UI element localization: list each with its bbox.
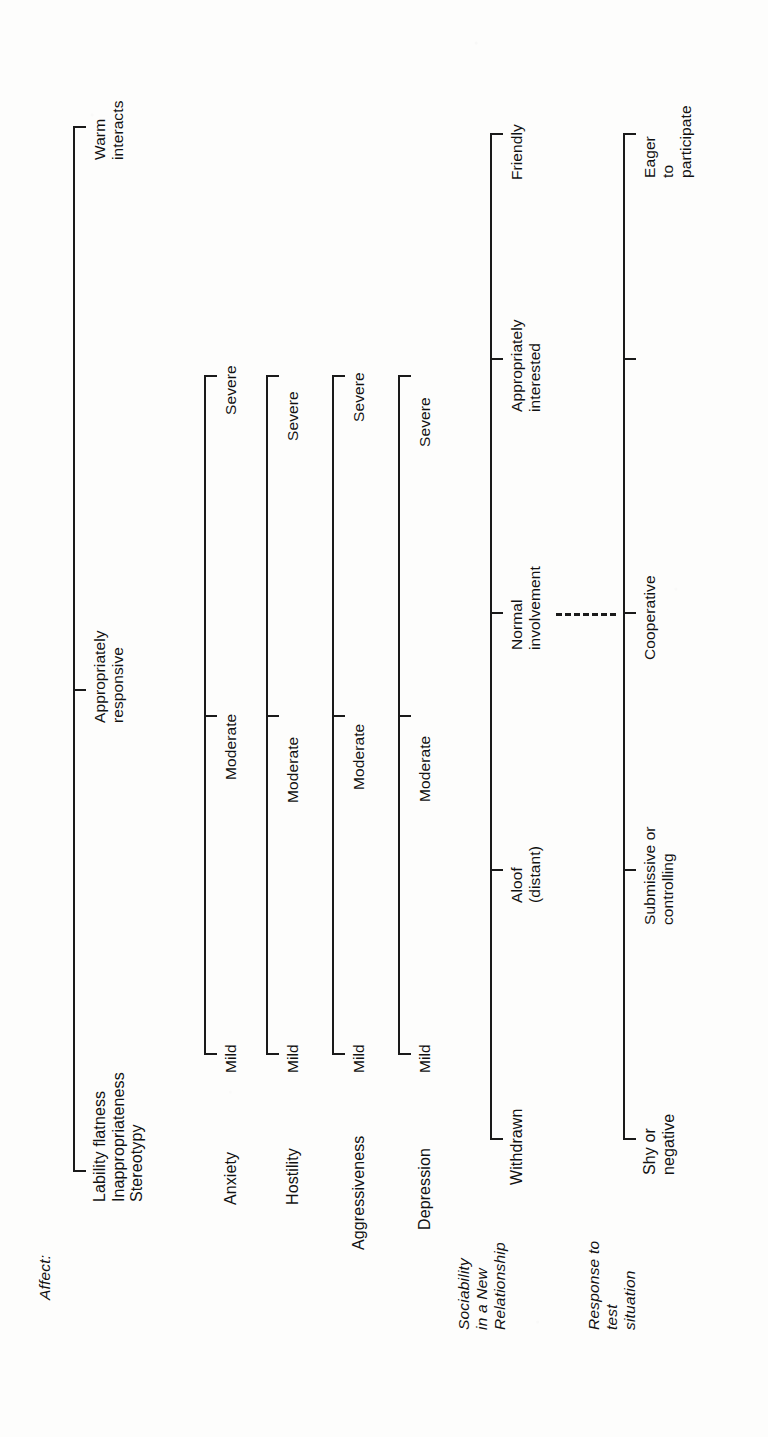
scale-cap-sociability-bottom	[490, 1138, 503, 1140]
scale-cap-depression-top	[398, 375, 411, 377]
row-label-hostility: Hostility	[284, 1148, 303, 1205]
anchor-label-depression-moderate: Moderate	[416, 736, 434, 802]
scale-cap-hostility-bottom	[266, 1053, 279, 1055]
anchor-label-response-eager-to-participate: Eager to participate	[641, 105, 695, 178]
anchor-label-anxiety-moderate: Moderate	[222, 714, 240, 780]
anchor-label-hostility-severe: Severe	[284, 391, 302, 441]
anchor-label-sociability-normal-involvement: Normal involvement	[508, 566, 544, 650]
group-heading-affect: Affect:	[36, 1255, 54, 1300]
scale-cap-anxiety-top	[204, 375, 217, 377]
scale-tick-aggressiveness-mid	[334, 715, 345, 717]
scale-tick-response-upper	[625, 358, 636, 360]
scale-tick-affect-mid	[75, 689, 86, 691]
scale-spine-response	[623, 133, 625, 1140]
scale-cap-affect-top	[73, 126, 86, 128]
row-label-depression: Depression	[416, 1148, 435, 1230]
scale-tick-response-cooperative	[625, 612, 636, 614]
anchor-label-response-submissive-or-controlling: Submissive or controlling	[641, 826, 677, 925]
anchor-label-depression-mild: Mild	[416, 1044, 434, 1073]
scale-cap-depression-bottom	[398, 1053, 411, 1055]
scan-page: Warm interacts Appropriately responsive …	[0, 0, 768, 1437]
scale-tick-sociability-aloof	[492, 869, 503, 871]
anchor-label-anxiety-mild: Mild	[222, 1044, 240, 1073]
anchor-label-hostility-mild: Mild	[284, 1044, 302, 1073]
row-label-response: Shy or negative	[641, 1114, 678, 1175]
anchor-label-affect-appropriately-responsive: Appropriately responsive	[91, 630, 127, 723]
group-heading-sociability: Sociability in a New Relationship	[455, 1242, 509, 1330]
anchor-label-hostility-moderate: Moderate	[284, 737, 302, 803]
anchor-label-aggressiveness-severe: Severe	[350, 372, 368, 422]
scale-spine-sociability	[490, 133, 492, 1140]
scale-cap-sociability-top	[490, 133, 503, 135]
dashed-connector-normal-to-cooperative	[556, 613, 616, 616]
anchor-label-sociability-friendly: Friendly	[508, 124, 526, 180]
scale-tick-hostility-mid	[268, 715, 279, 717]
scale-cap-aggressiveness-top	[332, 375, 345, 377]
anchor-label-anxiety-severe: Severe	[222, 365, 240, 415]
scale-cap-hostility-top	[266, 375, 279, 377]
scale-cap-aggressiveness-bottom	[332, 1053, 345, 1055]
scale-spine-affect	[73, 126, 75, 1172]
scale-tick-response-submissive	[625, 869, 636, 871]
anchor-label-response-cooperative: Cooperative	[641, 575, 659, 660]
anchor-label-aggressiveness-moderate: Moderate	[350, 724, 368, 790]
scale-tick-depression-mid	[400, 715, 411, 717]
anchor-label-affect-warm-interacts: Warm interacts	[91, 101, 127, 160]
scale-cap-response-bottom	[623, 1138, 636, 1140]
scale-tick-sociability-normal-involvement	[492, 612, 503, 614]
row-label-sociability: Withdrawn	[508, 1109, 527, 1185]
row-label-anxiety: Anxiety	[222, 1152, 241, 1205]
anchor-label-sociability-aloof: Aloof (distant)	[508, 846, 544, 903]
anchor-label-aggressiveness-mild: Mild	[350, 1044, 368, 1073]
scale-tick-sociability-appropriately-interested	[492, 358, 503, 360]
row-label-aggressiveness: Aggressiveness	[350, 1136, 369, 1250]
row-label-affect: Lability flatness Inappropriateness Ster…	[91, 1072, 147, 1202]
scale-cap-anxiety-bottom	[204, 1053, 217, 1055]
group-heading-response: Response to test situation	[585, 1241, 639, 1330]
scale-cap-affect-bottom	[73, 1170, 86, 1172]
anchor-label-sociability-appropriately-interested: Appropriately interested	[508, 319, 544, 412]
scale-tick-anxiety-mid	[206, 715, 217, 717]
anchor-label-depression-severe: Severe	[416, 397, 434, 447]
scale-cap-response-top	[623, 133, 636, 135]
